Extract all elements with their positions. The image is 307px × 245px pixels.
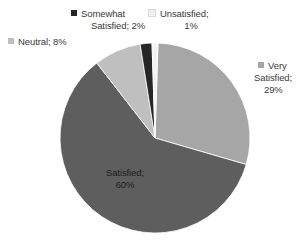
pie-label-neutral-text: Neutral; 8% [18,36,67,48]
pie-label-somewhat-satisfied-line2: Satisfied; 2% [71,20,155,32]
pie-label-satisfied-line2: 60% [86,179,164,191]
pie-label-satisfied: Satisfied; 60% [86,167,164,191]
pie-label-neutral: Neutral; 8% [8,36,67,48]
pie-label-somewhat-satisfied: Somewhat Satisfied; 2% [71,8,155,32]
pie-label-somewhat-satisfied-line1: Somewhat [71,8,155,20]
pie-label-unsatisfied: Unsatisfied; 1% [148,8,226,32]
pie-slice-group [60,43,250,233]
pie-label-unsatisfied-line2: 1% [148,20,226,32]
pie-label-very-satisfied-line3: 29% [246,84,306,96]
legend-swatch-somewhat-satisfied [71,10,77,16]
pie-label-very-satisfied: Very Satisfied; 29% [246,60,306,96]
pie-label-very-satisfied-line2: Satisfied; [246,72,306,84]
pie-label-unsatisfied-text1: Unsatisfied; [160,8,208,19]
pie-label-satisfied-line1: Satisfied; [86,167,164,179]
pie-label-very-satisfied-line1: Very [246,60,306,72]
pie-label-very-satisfied-text1: Very [268,60,287,71]
pie-label-unsatisfied-line1: Unsatisfied; [148,8,226,20]
legend-swatch-neutral [8,38,14,44]
legend-swatch-very-satisfied [258,62,264,68]
pie-label-somewhat-satisfied-text1: Somewhat [81,8,125,19]
pie-chart-figure: Neutral; 8% Somewhat Satisfied; 2% Unsat… [0,0,307,245]
legend-swatch-unsatisfied [148,9,156,17]
